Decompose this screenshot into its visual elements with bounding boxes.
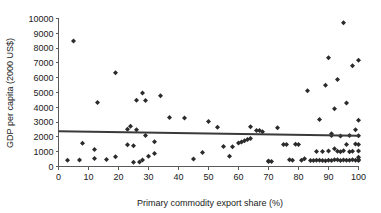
plot-frame (59, 19, 359, 167)
data-point (143, 98, 148, 103)
data-point (182, 116, 187, 121)
data-point (200, 150, 205, 155)
x-axis-title: Primary commodity export share (%) (137, 198, 283, 208)
x-tick-label: 50 (203, 172, 213, 182)
data-point (143, 133, 148, 138)
x-tick-label: 10 (83, 172, 93, 182)
y-axis-tick-labels: 0100020003000400050006000700080009000100… (28, 14, 53, 172)
data-point (326, 148, 331, 153)
data-point (221, 144, 226, 149)
trend-line-path (59, 131, 359, 135)
x-tick-label: 20 (113, 172, 123, 182)
data-point (167, 115, 172, 120)
data-point (290, 158, 295, 163)
data-point (353, 127, 358, 132)
data-point (104, 157, 109, 162)
y-tick-label: 6000 (33, 73, 53, 83)
data-point (335, 77, 340, 82)
data-point (230, 144, 235, 149)
data-point (131, 160, 136, 165)
y-axis-title: GDP per capita (2000 US$) (5, 38, 15, 148)
x-axis-tick-labels: 0102030405060708090100 (56, 172, 366, 182)
x-tick-label: 60 (233, 172, 243, 182)
data-point (356, 58, 361, 63)
y-tick-label: 0 (48, 162, 53, 172)
x-tick-label: 40 (173, 172, 183, 182)
y-tick-label: 9000 (33, 29, 53, 39)
data-point (215, 125, 220, 130)
data-point (296, 142, 301, 147)
data-point (152, 151, 157, 156)
data-point (92, 156, 97, 161)
x-tick-label: 0 (56, 172, 61, 182)
data-point (326, 55, 331, 60)
data-point (152, 139, 157, 144)
data-point (158, 93, 163, 98)
data-point (356, 148, 361, 153)
data-point (113, 70, 118, 75)
chart-canvas: 0100020003000400050006000700080009000100… (0, 0, 381, 213)
data-point (332, 106, 337, 111)
data-point (317, 117, 322, 122)
data-point (131, 143, 136, 148)
y-tick-label: 8000 (33, 43, 53, 53)
data-point (275, 125, 280, 130)
data-point (191, 157, 196, 162)
data-point (206, 119, 211, 124)
data-point (344, 142, 349, 147)
y-tick-label: 2000 (33, 132, 53, 142)
x-tick-label: 90 (323, 172, 333, 182)
data-point (113, 154, 118, 159)
x-tick-label: 80 (293, 172, 303, 182)
data-point (269, 159, 274, 164)
y-tick-label: 5000 (33, 88, 53, 98)
data-point (350, 63, 355, 68)
data-point (77, 157, 82, 162)
data-point-series (65, 20, 361, 165)
data-point (80, 141, 85, 146)
x-tick-label: 100 (351, 172, 366, 182)
y-tick-label: 7000 (33, 58, 53, 68)
data-point (341, 20, 346, 25)
data-point (146, 154, 151, 159)
trend-line (59, 131, 359, 135)
data-point (125, 142, 130, 147)
data-point (95, 100, 100, 105)
y-tick-label: 10000 (28, 14, 53, 24)
data-point (134, 98, 139, 103)
y-tick-label: 1000 (33, 147, 53, 157)
y-tick-label: 4000 (33, 103, 53, 113)
data-point (92, 147, 97, 152)
data-point (140, 91, 145, 96)
data-point (344, 101, 349, 106)
y-tick-label: 3000 (33, 117, 53, 127)
scatter-chart: 0100020003000400050006000700080009000100… (0, 0, 381, 213)
x-tick-label: 70 (263, 172, 273, 182)
data-point (284, 142, 289, 147)
data-point (227, 154, 232, 159)
data-point (320, 149, 325, 154)
data-point (323, 83, 328, 88)
data-point (71, 38, 76, 43)
data-point (356, 142, 361, 147)
data-point (248, 124, 253, 129)
data-point (356, 118, 361, 123)
x-tick-label: 30 (143, 172, 153, 182)
data-point (65, 158, 70, 163)
data-point (314, 149, 319, 154)
data-point (305, 88, 310, 93)
